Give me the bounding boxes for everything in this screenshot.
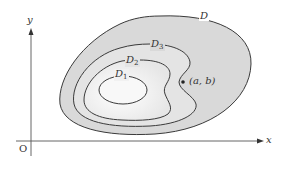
region-d2-label-sub: 2: [134, 59, 138, 67]
region-d3-label-sub: 3: [159, 43, 163, 51]
y-axis-label: y: [27, 15, 33, 25]
x-axis-label: x: [266, 135, 272, 145]
x-axis-arrow-icon: [257, 139, 264, 144]
region-d2-label: D2: [125, 55, 140, 67]
region-d1-label-sub: 1: [123, 73, 127, 81]
region-d1-label: D1: [114, 69, 129, 81]
region-d3-label-text: D: [151, 38, 159, 49]
point-a-b-marker: [181, 80, 185, 84]
region-d3-label: D3: [150, 39, 165, 51]
region-d-label: D: [199, 11, 209, 21]
origin-label: O: [19, 144, 27, 154]
point-a-b-label: (a, b): [189, 76, 216, 86]
region-d-label-text: D: [200, 10, 208, 21]
y-axis-arrow-icon: [29, 28, 34, 35]
region-d1-label-text: D: [115, 68, 123, 79]
nested-regions-diagram: y x O D D3 D2 D1 (a, b): [0, 0, 288, 171]
diagram-canvas: [0, 0, 288, 171]
region-d2-label-text: D: [126, 54, 134, 65]
